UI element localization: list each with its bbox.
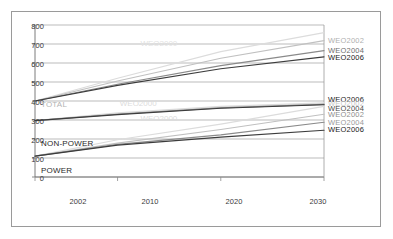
legend-label-weo2006: WEO2006 — [328, 53, 364, 62]
y-tick-label: 300 — [18, 117, 44, 126]
series-watermark: WEO2000 — [140, 114, 177, 123]
y-tick-label: 100 — [18, 155, 44, 164]
group-label-power: POWER — [41, 166, 72, 175]
y-tick-label: 800 — [18, 22, 44, 31]
y-tick-label: 0 — [18, 174, 44, 183]
y-tick-label: 700 — [18, 41, 44, 50]
x-tick-label: 2030 — [298, 197, 338, 206]
x-tick-label: 2020 — [214, 197, 254, 206]
series-watermark: WEO2000 — [140, 39, 177, 48]
group-label-non-power: NON-POWER — [41, 139, 93, 148]
legend-label-weo2006: WEO2006 — [328, 125, 364, 134]
series-watermark: WEO2000 — [120, 99, 157, 108]
y-tick-label: 500 — [18, 79, 44, 88]
y-tick-label: 600 — [18, 60, 44, 69]
x-tick-label: 2002 — [58, 197, 98, 206]
x-tick-label: 2010 — [130, 197, 170, 206]
group-label-total: TOTAL — [41, 100, 67, 109]
chart-figure: WEO2000WEO2000WEO2000WEO2002WEO2004WEO20… — [0, 0, 393, 239]
legend-label-weo2002: WEO2002 — [328, 36, 364, 45]
